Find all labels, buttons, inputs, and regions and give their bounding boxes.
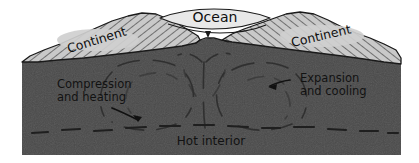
- label-cooling: and cooling: [300, 84, 367, 98]
- label-ocean: Ocean: [193, 9, 238, 25]
- mantle-convection-figure: Ocean Continent Continent Compression an…: [0, 0, 419, 163]
- label-heating: and heating: [57, 90, 126, 104]
- label-expansion: Expansion: [300, 71, 359, 85]
- label-hot-interior: Hot interior: [177, 134, 246, 148]
- label-compression: Compression: [57, 77, 132, 91]
- diagram-canvas: Ocean Continent Continent Compression an…: [0, 0, 419, 163]
